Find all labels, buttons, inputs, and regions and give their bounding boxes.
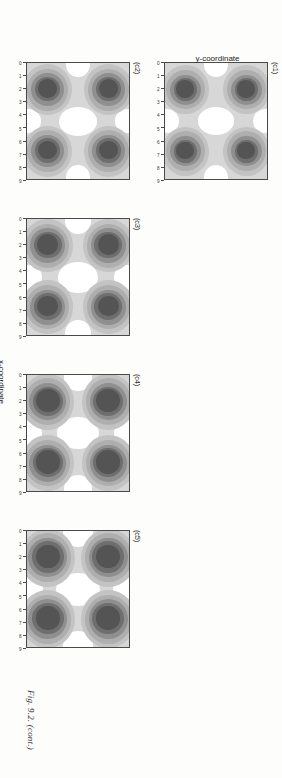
x-tick-label: 6 xyxy=(19,140,22,145)
axis-tick xyxy=(23,530,26,531)
x-tick-label: 7 xyxy=(19,465,22,470)
x-tick-label: 0 xyxy=(19,61,22,66)
axis-tick xyxy=(161,114,164,115)
axis-tick xyxy=(23,439,26,440)
axis-tick xyxy=(23,609,26,610)
x-tick-label: 6 xyxy=(19,452,22,457)
x-tick-label: 1 xyxy=(19,386,22,391)
x-tick-label: 1 xyxy=(157,74,160,79)
x-tick-label: 6 xyxy=(19,296,22,301)
contour-peak xyxy=(99,141,117,160)
axis-tick xyxy=(23,336,26,337)
x-tick-label: 4 xyxy=(19,581,22,586)
axis-tick xyxy=(161,75,164,76)
axis-tick xyxy=(23,569,26,570)
panel-c1-label: (c1) xyxy=(271,62,280,74)
axis-tick xyxy=(161,154,164,155)
panel-c4-plot-frame xyxy=(26,374,130,492)
x-tick-label: 1 xyxy=(19,542,22,547)
axis-tick xyxy=(23,114,26,115)
axis-tick xyxy=(23,310,26,311)
axis-tick xyxy=(23,479,26,480)
contour-peak xyxy=(98,296,118,317)
axis-tick xyxy=(23,556,26,557)
x-tick-label: 8 xyxy=(19,478,22,483)
axis-tick xyxy=(23,75,26,76)
contour-peak xyxy=(96,606,119,629)
axis-tick xyxy=(161,101,164,102)
x-tick-label: 0 xyxy=(157,61,160,66)
axis-tick xyxy=(23,543,26,544)
contour-peak xyxy=(36,450,59,473)
x-tick-label: 9 xyxy=(19,491,22,496)
x-tick-label: 3 xyxy=(19,256,22,261)
x-tick-label: 4 xyxy=(19,425,22,430)
axis-tick xyxy=(161,141,164,142)
axis-tick xyxy=(23,492,26,493)
x-tick-label: 5 xyxy=(19,439,22,444)
x-tick-label: 0 xyxy=(19,373,22,378)
panel-c2: (c2) xyxy=(26,62,130,180)
x-tick-label: 1 xyxy=(19,74,22,79)
axis-tick xyxy=(23,257,26,258)
x-tick-label: 2 xyxy=(19,87,22,92)
axis-tick xyxy=(23,374,26,375)
axis-tick xyxy=(23,297,26,298)
scanned-figure-canvas: (c1) xyxy=(0,0,282,778)
axis-tick xyxy=(23,231,26,232)
contour-peak xyxy=(237,80,254,97)
panel-c4-contour-field xyxy=(27,375,129,491)
contour-peak xyxy=(38,141,56,160)
axis-tick xyxy=(161,127,164,128)
contour-peak xyxy=(37,234,57,255)
axis-tick xyxy=(23,141,26,142)
x-tick-label: 0 xyxy=(19,217,22,222)
axis-tick xyxy=(23,270,26,271)
x-axis-title: x-coordinate xyxy=(0,360,6,404)
panel-c5: (c5) xyxy=(26,530,130,648)
x-tick-label: 2 xyxy=(157,87,160,92)
axis-tick xyxy=(23,167,26,168)
x-tick-label: 5 xyxy=(19,283,22,288)
panel-c3-contour-field xyxy=(27,219,129,335)
x-tick-label: 3 xyxy=(19,412,22,417)
panel-c2-contour-field xyxy=(27,63,129,179)
axis-tick xyxy=(23,595,26,596)
axis-tick xyxy=(23,453,26,454)
axis-tick xyxy=(23,635,26,636)
x-tick-label: 4 xyxy=(157,113,160,118)
x-tick-label: 2 xyxy=(19,555,22,560)
figure-page: (c1) xyxy=(0,0,282,778)
x-tick-label: 0 xyxy=(19,529,22,534)
axis-tick xyxy=(23,426,26,427)
contour-peak xyxy=(99,79,117,98)
axis-tick xyxy=(161,62,164,63)
x-tick-label: 7 xyxy=(157,153,160,158)
panel-c1-plot-frame xyxy=(164,62,268,180)
panel-c4-label: (c4) xyxy=(133,374,142,386)
contour-peak xyxy=(36,606,59,629)
axis-tick xyxy=(23,387,26,388)
axis-tick xyxy=(23,400,26,401)
axis-tick xyxy=(23,180,26,181)
axis-tick xyxy=(23,101,26,102)
axis-tick xyxy=(23,323,26,324)
x-tick-label: 8 xyxy=(157,166,160,171)
contour-peak xyxy=(98,234,118,255)
contour-peak xyxy=(96,545,119,568)
axis-tick xyxy=(161,88,164,89)
x-tick-label: 2 xyxy=(19,399,22,404)
x-tick-label: 2 xyxy=(19,243,22,248)
axis-tick xyxy=(23,218,26,219)
x-tick-label: 7 xyxy=(19,153,22,158)
x-tick-label: 1 xyxy=(19,230,22,235)
x-tick-label: 3 xyxy=(19,100,22,105)
axis-tick xyxy=(23,154,26,155)
x-tick-label: 7 xyxy=(19,309,22,314)
panel-c3: (c3) xyxy=(26,218,130,336)
panel-c1: (c1) xyxy=(164,62,268,180)
axis-tick xyxy=(161,167,164,168)
x-tick-label: 8 xyxy=(19,166,22,171)
axis-tick xyxy=(23,62,26,63)
panel-c5-plot-frame xyxy=(26,530,130,648)
